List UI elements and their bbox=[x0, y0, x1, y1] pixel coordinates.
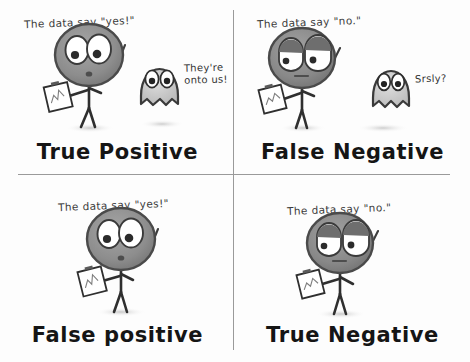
scientist-head bbox=[55, 24, 123, 86]
panel-true-positive: The data say "yes!" bbox=[0, 0, 235, 181]
panel-false-negative: The data say "no." bbox=[235, 0, 470, 181]
caption-true-negative: True Negative bbox=[235, 323, 470, 347]
scientist-head bbox=[307, 213, 373, 273]
clipboard-icon bbox=[43, 79, 73, 112]
shadow-ghost bbox=[357, 124, 409, 133]
ghost-icon bbox=[373, 71, 409, 107]
speech-text-ghost: They're onto us! bbox=[184, 61, 236, 86]
scientist-head bbox=[87, 208, 155, 270]
clipboard-icon bbox=[77, 264, 107, 297]
shadow-scientist bbox=[316, 309, 366, 318]
shadow-ghost bbox=[140, 120, 184, 128]
ghost-icon bbox=[141, 69, 178, 105]
cartoon-canvas: The data say "yes!" bbox=[0, 0, 470, 362]
caption-true-positive: True Positive bbox=[0, 140, 235, 164]
shadow-scientist bbox=[96, 307, 146, 316]
clipboard-icon bbox=[296, 267, 325, 299]
shadow-scientist bbox=[66, 123, 114, 132]
clipboard-icon bbox=[258, 82, 287, 114]
panel-false-positive: The data say "yes!" bbox=[0, 181, 235, 362]
panel-true-negative: The data say "no." bbox=[235, 181, 470, 362]
shadow-scientist bbox=[280, 124, 326, 133]
scientist-head bbox=[269, 28, 335, 88]
caption-false-negative: False Negative bbox=[235, 140, 470, 164]
caption-false-positive: False positive bbox=[0, 323, 235, 347]
speech-text-ghost: Srsly? bbox=[415, 73, 447, 86]
